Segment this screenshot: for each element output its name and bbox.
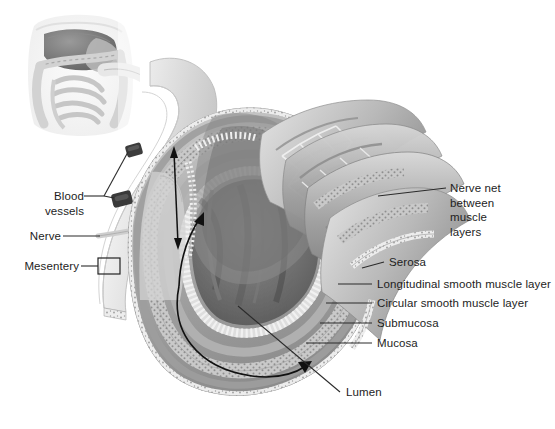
label-longitudinal-muscle: Longitudinal smooth muscle layer xyxy=(377,277,551,292)
abdominal-anatomy-inset xyxy=(22,8,166,140)
anatomical-figure: Blood vessels Nerve Mesentery Nerve net … xyxy=(0,0,555,429)
label-submucosa: Submucosa xyxy=(377,316,439,331)
label-circular-muscle: Circular smooth muscle layer xyxy=(377,296,528,311)
label-mesentery: Mesentery xyxy=(2,259,79,274)
leader-blood-vessels xyxy=(84,152,128,198)
label-mucosa: Mucosa xyxy=(377,336,418,351)
blood-vessel-upper xyxy=(125,142,144,158)
label-lumen: Lumen xyxy=(346,385,382,400)
label-blood-vessels: Blood vessels xyxy=(6,189,84,218)
label-nerve: Nerve xyxy=(6,229,61,244)
label-serosa: Serosa xyxy=(389,255,426,270)
label-nerve-net: Nerve net between muscle layers xyxy=(450,181,550,239)
